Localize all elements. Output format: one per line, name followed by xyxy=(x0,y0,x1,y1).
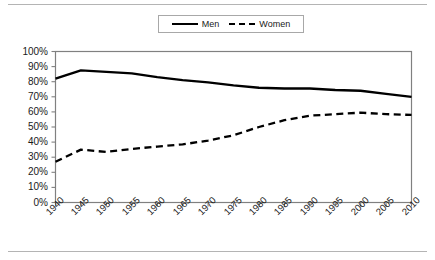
y-axis-tick-label: 20% xyxy=(6,167,48,177)
plot-area: 100%90%80%70%60%50%40%30%20%10%0% 194019… xyxy=(0,0,435,260)
plot-svg xyxy=(0,0,435,260)
y-axis-tick-label: 40% xyxy=(6,137,48,147)
axis-ticks xyxy=(52,52,412,207)
data-series-group xyxy=(56,70,412,161)
y-axis-tick-label: 50% xyxy=(6,122,48,132)
y-axis-tick-label: 0% xyxy=(6,198,48,208)
y-axis-tick-label: 60% xyxy=(6,107,48,117)
axis-group xyxy=(56,52,412,203)
series-line-men xyxy=(56,70,412,96)
y-axis-tick-label: 30% xyxy=(6,152,48,162)
plot-frame xyxy=(56,52,412,203)
y-axis-tick-label: 10% xyxy=(6,182,48,192)
y-axis-tick-label: 70% xyxy=(6,92,48,102)
y-axis-tick-label: 80% xyxy=(6,77,48,87)
y-axis-tick-label: 100% xyxy=(6,47,48,57)
y-axis-tick-label: 90% xyxy=(6,62,48,72)
series-line-women xyxy=(56,113,412,162)
chart-figure: Men Women 100%90%80%70%60%50%40%30%20%10… xyxy=(0,0,435,260)
